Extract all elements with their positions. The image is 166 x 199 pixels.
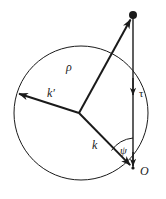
k-label: k: [92, 139, 97, 151]
psi-label: ψ: [120, 145, 127, 156]
rho-vector-line: [79, 20, 131, 114]
reference-circle: [14, 46, 148, 180]
rho-label: ρ: [66, 61, 72, 73]
k-vector-line: [79, 113, 130, 165]
k-prime-label: k′: [47, 87, 55, 99]
figure-canvas: ρ k′ k τ ψ O: [0, 0, 166, 199]
origin-label: O: [140, 165, 149, 177]
apex-point-marker: [129, 11, 137, 19]
origin-point-marker: [131, 166, 134, 169]
tau-label: τ: [139, 88, 143, 99]
